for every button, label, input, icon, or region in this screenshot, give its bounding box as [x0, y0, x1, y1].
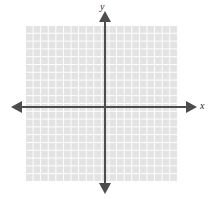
coordinate-plane-figure: y x [0, 0, 215, 199]
grid-area [26, 26, 178, 182]
x-axis-left-arrow-icon [11, 101, 22, 113]
y-axis-label: y [100, 2, 104, 12]
x-axis-label: x [200, 101, 204, 111]
y-axis-up-arrow-icon [99, 11, 111, 22]
x-axis-right-arrow-icon [186, 101, 197, 113]
y-axis-down-arrow-icon [99, 183, 111, 194]
y-axis-line [104, 16, 106, 188]
